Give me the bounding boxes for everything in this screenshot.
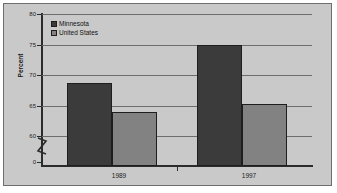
bar-minnesota-1989 (67, 83, 112, 166)
legend-label-minnesota: Minnesota (59, 20, 89, 28)
y-axis-tick-labels: 80 75 70 65 60 0 (16, 4, 36, 187)
x-tick-label-1997: 1997 (219, 172, 279, 179)
chart-legend: Minnesota United States (49, 17, 115, 39)
y-tick-label-75: 75 (29, 42, 36, 49)
legend-item-minnesota: Minnesota (51, 19, 113, 28)
legend-item-united-states: United States (51, 28, 113, 37)
legend-swatch-icon-united-states (51, 30, 57, 36)
legend-label-united-states: United States (59, 29, 98, 37)
y-tick-label-70: 70 (29, 72, 36, 79)
gridline-70 (42, 75, 312, 76)
bar-united-states-1997 (242, 104, 287, 166)
x-tick-label-1989: 1989 (89, 172, 149, 179)
bar-united-states-1989 (112, 112, 157, 166)
gridline-75 (42, 45, 312, 46)
y-tick-label-80: 80 (29, 11, 36, 18)
legend-swatch-icon-minnesota (51, 21, 57, 27)
y-tick-label-65: 65 (29, 103, 36, 110)
chart-frame: Percent 80 75 70 65 60 0 (3, 3, 332, 186)
bar-minnesota-1997 (197, 45, 242, 166)
chart-screenshot: Percent 80 75 70 65 60 0 (0, 0, 337, 193)
gridline-80 (42, 14, 312, 15)
x-axis-group-tick (177, 167, 178, 171)
y-tick-label-0: 0 (33, 159, 36, 166)
